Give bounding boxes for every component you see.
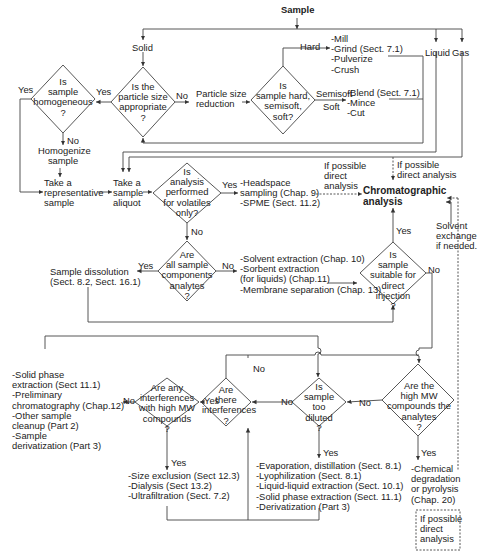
decision-all-analytes: Areall samplecomponentsanalytes?	[160, 250, 214, 301]
process-soft-methods: -Blend (Sect. 7.1)-Mince-Cut	[347, 88, 420, 119]
label-soft: Soft	[323, 102, 340, 112]
label-no: No	[176, 91, 188, 101]
label-no: No	[191, 227, 203, 237]
process-concentration-methods: -Evaporation, distillation (Sect. 8.1)-L…	[256, 461, 403, 512]
process-sample-aliquot: Take asamplealiquot	[113, 178, 143, 209]
label-no: No	[222, 261, 234, 271]
label-yes: Yes	[222, 180, 237, 190]
decision-hardness: Issample hard,semisoft,soft?	[252, 81, 314, 122]
note-direct-analysis: If possibledirect analysis	[397, 160, 456, 180]
label-no: No	[281, 397, 293, 407]
decision-interferences: Arethereinterferences?	[202, 385, 250, 426]
label-yes: Yes	[171, 458, 186, 468]
decision-high-mw-analytes: Are thehigh MWcompounds theanalytes?	[384, 381, 454, 432]
note-direct-analysis: If possibledirectanalysis	[420, 514, 462, 545]
process-homogenize: Homogenizesample	[38, 146, 88, 166]
decision-volatiles: Isanalysisperformedfor volatilesonly?	[156, 167, 218, 218]
process-representative-sample: Take arepresentativesample	[44, 178, 103, 209]
process-degradation-methods: -Chemical degradation or pyrolysis (Chap…	[411, 464, 461, 505]
end-node-chromatographic-analysis: Chromatographicanalysis	[363, 185, 446, 207]
decision-homogeneous: Issamplehomogeneous?	[33, 77, 93, 118]
label-yes: Yes	[96, 87, 111, 97]
label-yes: Yes	[421, 448, 436, 458]
process-size-methods: -Size exclusion (Sect 12.3)-Dialysis (Se…	[128, 471, 240, 502]
label-yes: Yes	[396, 226, 411, 236]
decision-high-mw-interferences: Are anyinterferenceswith high MWcompound…	[135, 383, 199, 434]
label-yes: Yes	[18, 85, 33, 95]
branch-liquid: Liquid	[425, 48, 450, 58]
process-particle-reduction: Particle sizereduction	[196, 89, 247, 109]
process-cleanup-methods: -Solid phase extraction (Sect 11.1)-Prel…	[12, 370, 124, 452]
label-yes: Yes	[323, 448, 338, 458]
note-direct-analysis: If possibledirectanalysis	[324, 161, 366, 192]
label-no: No	[253, 364, 265, 374]
label-no: No	[359, 398, 371, 408]
branch-gas: Gas	[452, 48, 469, 58]
process-volatile-methods: -Headspace sampling (Chap. 9)-SPME (Sect…	[240, 178, 320, 209]
decision-direct-injection: Issamplesuitable fordirectinjection?	[362, 250, 424, 311]
label-no: No	[428, 265, 440, 275]
process-extraction-methods: -Solvent extraction (Chap. 10)-Sorbent e…	[240, 254, 381, 295]
sample-prep-flowchart: Sample Solid Liquid Gas Is theparticle s…	[0, 0, 485, 556]
branch-solid: Solid	[132, 43, 153, 53]
note-solvent-exchange: Solventexchangeif needed.	[436, 221, 477, 252]
start-node-sample: Sample	[281, 5, 314, 15]
label-no: No	[123, 396, 135, 406]
decision-too-diluted: Issampletoodiluted?	[294, 382, 344, 433]
label-hard: Hard	[300, 42, 320, 52]
process-dissolution: Sample dissolution(Sect. 8.2, Sect. 16.1…	[50, 267, 141, 287]
process-hard-methods: -Mill-Grind (Sect. 7.1)-Pulverize-Crush	[331, 34, 403, 75]
decision-particle-size: Is theparticle sizeappropriate?	[113, 82, 173, 123]
